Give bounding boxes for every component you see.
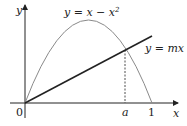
x-axis-label: x: [173, 107, 180, 120]
parabola-curve: [25, 20, 152, 103]
line-equation: y = mx: [144, 42, 185, 55]
parabola-equation: y = x − x2: [63, 6, 120, 19]
a-tick-label: a: [122, 106, 129, 119]
line-mx: [25, 36, 152, 103]
diagram: y x 0 a 1 y = x − x2 y = mx: [0, 0, 187, 126]
one-tick-label: 1: [148, 106, 155, 119]
y-axis-label: y: [15, 4, 23, 17]
origin-label: 0: [16, 106, 23, 119]
